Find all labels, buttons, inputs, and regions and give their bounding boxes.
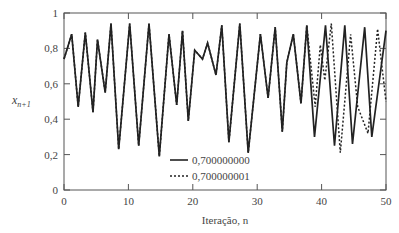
series-layer [64,24,386,157]
x-tick-label: 10 [123,195,135,207]
y-tick-label: 0,8 [44,42,58,54]
y-tick-label: 0,2 [44,149,58,161]
series-line-0-700000000 [64,24,386,157]
legend: 0,700000000 0,700000001 [170,154,250,182]
y-axis-ticks: 00,20,40,60,81 [44,7,386,196]
x-axis-label: Iteração, n [202,214,249,226]
y-axis-label-subscript: n+1 [17,100,30,109]
chaos-line-chart: 01020304050 00,20,40,60,81 Iteração, n x… [0,0,399,233]
y-tick-label: 0,4 [44,113,58,125]
x-axis-label-text: Iteração, n [202,214,249,226]
x-tick-label: 30 [252,195,264,207]
y-tick-label: 1 [53,7,59,19]
x-tick-label: 50 [381,195,393,207]
y-axis-label: xn+1 [11,93,31,109]
x-tick-label: 20 [187,195,199,207]
y-tick-label: 0 [53,184,59,196]
legend-label-solid: 0,700000000 [192,154,250,166]
x-tick-label: 0 [61,195,67,207]
y-tick-label: 0,6 [44,78,58,90]
x-tick-label: 40 [316,195,328,207]
legend-label-dotted: 0,700000001 [192,170,250,182]
